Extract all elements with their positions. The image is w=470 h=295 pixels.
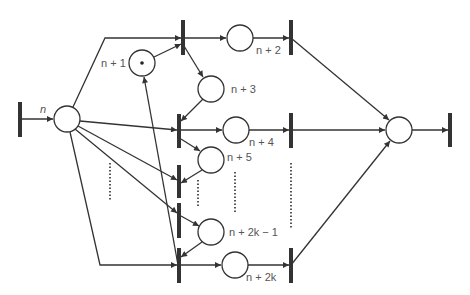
label-n-plus-5: n + 5 <box>227 151 252 163</box>
arc-t6-pn2k1 <box>181 216 199 226</box>
arc-pn-t1 <box>73 38 181 107</box>
transition-t5 <box>177 165 181 198</box>
transition-t1 <box>181 20 185 55</box>
transition-t2 <box>289 20 293 55</box>
label-n-plus-3: n + 3 <box>231 83 256 95</box>
place-n-plus-2k <box>222 252 248 278</box>
place-n-plus-3 <box>198 76 224 102</box>
place-n <box>54 106 80 132</box>
place-n-plus-4 <box>223 117 249 143</box>
token-icon <box>140 61 144 65</box>
transition-t7 <box>177 248 181 283</box>
label-n: n <box>40 103 46 115</box>
arc-pn-t3 <box>80 121 177 130</box>
arc-t1-pn3 <box>184 46 203 77</box>
place-n-plus-2 <box>227 25 253 51</box>
label-n-plus-1: n + 1 <box>101 57 126 69</box>
transition-t4 <box>289 113 293 148</box>
transition-input <box>18 102 22 137</box>
place-output <box>386 117 412 143</box>
arc-pn1-t1 <box>154 44 181 57</box>
arc-pn-t7 <box>70 132 177 265</box>
arc-pn2k1-t7 <box>181 242 202 257</box>
place-n-plus-5 <box>198 147 224 173</box>
arc-t2-pout <box>291 38 389 120</box>
arc-t7-pn1 <box>144 77 178 265</box>
transition-t6 <box>177 203 181 238</box>
place-n-plus-2k-minus-1 <box>198 219 224 245</box>
transition-t8 <box>289 248 293 283</box>
label-n-plus-4: n + 4 <box>249 136 274 148</box>
transition-t3 <box>177 114 181 148</box>
label-n-plus-2k-minus-1: n + 2k − 1 <box>229 226 278 238</box>
label-n-plus-2: n + 2 <box>256 44 281 56</box>
arc-t3-pn5 <box>181 139 200 151</box>
transition-output <box>448 113 452 147</box>
arc-pn3-t3 <box>181 99 203 121</box>
arc-t8-pout <box>291 141 390 265</box>
petri-net-diagram: n n + 1 n + 2 n + 3 n + 4 n + 5 n + 2k −… <box>0 0 470 295</box>
label-n-plus-2k: n + 2k <box>246 271 277 283</box>
